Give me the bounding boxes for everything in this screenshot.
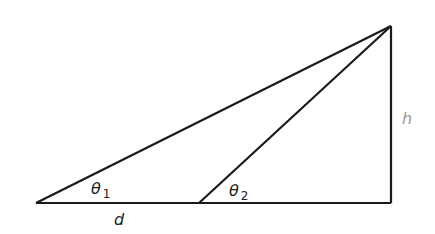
theta1-label: θ1 <box>91 179 110 201</box>
h-label: h <box>402 109 412 128</box>
theta2-label: θ2 <box>229 181 248 203</box>
hypotenuse-theta2 <box>199 26 391 203</box>
hypotenuse-theta1 <box>36 26 391 203</box>
d-label: d <box>114 210 125 229</box>
triangle-diagram: θ1 θ2 d h <box>0 0 435 234</box>
